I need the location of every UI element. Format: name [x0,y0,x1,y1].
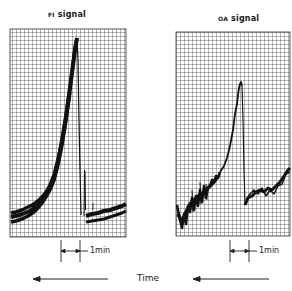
fi-scale-label: 1min [90,246,110,255]
signal-figure [0,0,292,291]
time-arrow-right [193,277,269,282]
fi-scale-bar [61,240,88,262]
time-axis-label: Time [137,273,159,283]
oa-scale-bar [230,240,257,262]
oa-scale-label: 1min [259,246,279,255]
time-arrow-left [33,277,108,282]
